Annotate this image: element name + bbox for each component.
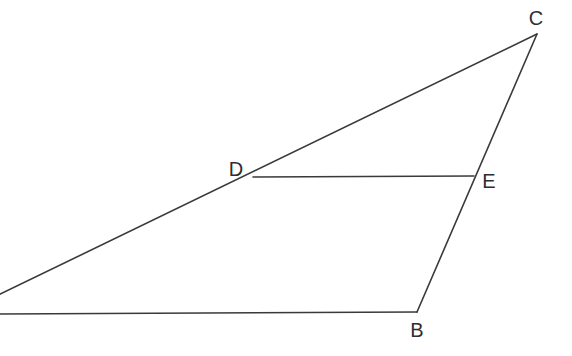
segment-de	[253, 176, 474, 177]
geometry-diagram: C D E B	[0, 0, 572, 356]
geometry-canvas: C D E B	[0, 0, 572, 356]
segment-bc	[417, 34, 537, 312]
vertex-label-b: B	[410, 319, 424, 341]
vertex-label-e: E	[482, 170, 496, 192]
vertex-label-d: D	[229, 158, 244, 180]
vertex-label-c: C	[529, 7, 544, 29]
segment-ab	[0, 312, 417, 314]
segment-ac	[0, 34, 537, 300]
